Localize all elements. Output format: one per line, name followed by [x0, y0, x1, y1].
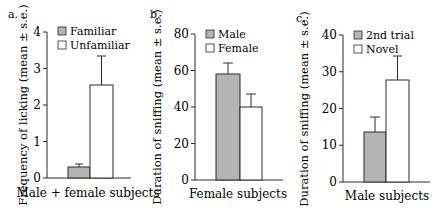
panel-a-ytick: 0	[33, 171, 41, 185]
panel-b-ytick: 20	[174, 137, 189, 151]
panel-a-legend-unfamiliar: Unfamiliar	[70, 39, 131, 52]
panel-b-xlabel: Female subjects	[189, 187, 287, 201]
panel-c-legend-novel: Novel	[366, 43, 399, 56]
panel-c: c. Duration of sniffing (mean ± s.e.) 0 …	[296, 11, 430, 206]
legend-swatch-gray	[206, 30, 214, 38]
panel-a-ytick: 2	[33, 98, 41, 112]
figure: a. Frequency of licking (mean ± s.e.) 0 …	[0, 0, 444, 210]
panel-c-ytick: 20	[322, 102, 337, 116]
panel-a-ytick: 3	[33, 62, 41, 76]
panel-c-ytick: 40	[322, 28, 337, 42]
panel-b-ytick: 80	[174, 27, 189, 41]
panel-a-ytick: 1	[33, 135, 41, 149]
panel-c-ytick: 0	[329, 175, 337, 189]
panel-c-legend-2nd-trial: 2nd trial	[366, 29, 414, 42]
panel-b-ytick: 0	[181, 173, 189, 187]
panel-a: a. Frequency of licking (mean ± s.e.) 0 …	[8, 4, 160, 205]
panel-a-bar-familiar	[68, 167, 90, 178]
panel-b-bar-female	[240, 107, 262, 180]
panel-b-ytick: 60	[174, 64, 189, 78]
panel-c-ytick: 30	[322, 65, 337, 79]
panel-c-xlabel: Male subjects	[345, 189, 429, 203]
legend-swatch-white	[206, 44, 214, 52]
panel-c-ylabel: Duration of sniffing (mean ± s.e.)	[297, 11, 311, 206]
panel-b-legend-male: Male	[218, 28, 246, 41]
legend-swatch-white	[58, 41, 66, 49]
panel-a-legend-familiar: Familiar	[70, 25, 117, 38]
panel-a-xlabel: Male + female subjects	[17, 186, 160, 200]
panel-b-bar-male	[216, 74, 240, 180]
panel-c-bar-2nd-trial	[364, 132, 386, 182]
panel-b-ytick: 40	[174, 100, 189, 114]
panel-c-bar-novel	[386, 80, 409, 182]
panel-c-ytick: 10	[322, 138, 337, 152]
panel-b-legend-female: Female	[218, 42, 259, 55]
panel-a-bar-unfamiliar	[90, 85, 113, 178]
legend-swatch-gray	[58, 27, 66, 35]
panel-a-ytick: 4	[33, 25, 41, 39]
panel-b: b. Duration of sniffing (mean ± s.e.) 0 …	[150, 8, 287, 205]
panel-b-ylabel: Duration of sniffing (mean ± s.e.)	[150, 9, 164, 204]
panel-a-ylabel: Frequency of licking (mean ± s.e.)	[16, 4, 30, 205]
legend-swatch-gray	[354, 31, 362, 39]
legend-swatch-white	[354, 45, 362, 53]
